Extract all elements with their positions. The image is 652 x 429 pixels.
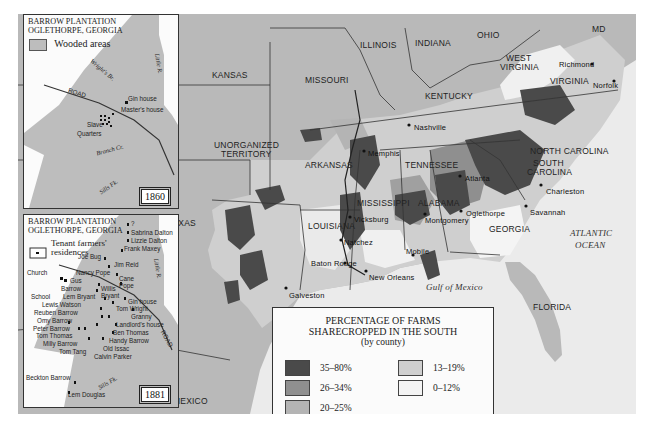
resident-label: Tom Tang bbox=[59, 348, 86, 355]
water-label-gulf: Gulf of Mexico bbox=[426, 282, 483, 292]
inset-1881-title: BARROW PLANTATION OGLETHORPE, GEORGIA bbox=[28, 217, 123, 235]
resident-label: Beckton Barrow bbox=[26, 374, 70, 381]
resident-label: Lem Douglas bbox=[68, 391, 105, 398]
resident-label: Gus bbox=[70, 277, 82, 284]
resident-label: Omy Barrow bbox=[37, 317, 72, 324]
legend-item-20-25: 20–25% bbox=[285, 400, 352, 414]
legend-title-line2: SHARECROPPED IN THE SOUTH bbox=[273, 326, 493, 337]
inset-1860-legend: Wooded areas bbox=[29, 39, 110, 51]
inset-1860-label: Gin house bbox=[128, 95, 157, 102]
resident-label: Gin house bbox=[128, 298, 157, 305]
legend-subtitle: (by county) bbox=[273, 337, 493, 348]
resident-label: Ben Thomas bbox=[113, 329, 149, 336]
resident-label: Barrow bbox=[61, 285, 81, 292]
map-legend: PERCENTAGE OF FARMS SHARECROPPED IN THE … bbox=[272, 307, 494, 414]
water-label-ocean: OCEAN bbox=[575, 240, 606, 250]
inset-1860-label: Quarters bbox=[77, 130, 102, 137]
resident-label: Nancy Pope bbox=[76, 269, 110, 276]
resident-label: Granny bbox=[131, 313, 152, 320]
legend-label: 0–12% bbox=[433, 383, 460, 393]
resident-label: School bbox=[31, 293, 50, 300]
resident-label: Lem Bryant bbox=[63, 293, 95, 300]
resident-label: Landlord's house bbox=[116, 321, 164, 328]
resident-label: Reuben Barrow bbox=[34, 309, 78, 316]
inset-1860-label: Slave bbox=[87, 121, 103, 128]
resident-label: Frank Maxey bbox=[124, 245, 160, 252]
resident-label: Calvin Parker bbox=[94, 353, 132, 360]
resident-label: Church bbox=[27, 269, 47, 276]
legend-item-13-19: 13–19% bbox=[398, 360, 465, 376]
legend-swatch bbox=[398, 380, 423, 396]
water-label-atlantic: ATLANTIC bbox=[570, 228, 612, 238]
legend-item-0-12: 0–12% bbox=[398, 380, 460, 396]
resident-label: Pope bbox=[119, 282, 134, 289]
resident-label: Handy Barrow bbox=[109, 337, 149, 344]
legend-label: 35–80% bbox=[320, 363, 352, 373]
legend-item-35-80: 35–80% bbox=[285, 360, 352, 376]
resident-label: Joe Bug bbox=[78, 253, 101, 260]
resident-label: Tom Thomas bbox=[36, 332, 72, 339]
legend-title-line1: PERCENTAGE OF FARMS bbox=[273, 315, 493, 326]
inset-map-1881: BARROW PLANTATION OGLETHORPE, GEORGIA Te… bbox=[23, 214, 179, 408]
inset-1881-title-line1: BARROW PLANTATION bbox=[28, 217, 123, 226]
resident-label: Tom Wright bbox=[116, 305, 148, 312]
inset-1860-title: BARROW PLANTATION OGLETHORPE, GEORGIA bbox=[28, 17, 123, 35]
resident-label: Old Issac bbox=[103, 345, 129, 352]
legend-label: 26–34% bbox=[320, 383, 352, 393]
inset-1860-title-line2: OGLETHORPE, GEORGIA bbox=[28, 26, 123, 35]
wooded-label: Wooded areas bbox=[54, 38, 110, 49]
resident-label: Bryant bbox=[101, 292, 119, 299]
resident-label: Lizzie Dalton bbox=[131, 237, 167, 244]
inset-1881-title-line2: OGLETHORPE, GEORGIA bbox=[28, 226, 123, 235]
resident-label: Lewis Watson bbox=[42, 301, 81, 308]
inset-map-1860: BARROW PLANTATION OGLETHORPE, GEORGIA Wo… bbox=[23, 14, 179, 209]
inset-1860-title-line1: BARROW PLANTATION bbox=[28, 17, 123, 26]
legend-label: 13–19% bbox=[433, 363, 465, 373]
resident-label: Willis bbox=[101, 285, 116, 292]
legend-item-26-34: 26–34% bbox=[285, 380, 352, 396]
legend-swatch bbox=[285, 400, 310, 414]
resident-label: Milly Barrow bbox=[43, 340, 77, 347]
inset-1860-year: 1860 bbox=[141, 189, 169, 204]
resident-label: Sabrina Dalton bbox=[131, 229, 173, 236]
legend-swatch bbox=[285, 360, 310, 376]
resident-label: ? bbox=[131, 220, 135, 227]
resident-label: Jim Reid bbox=[114, 261, 139, 268]
inset-1881-year: 1881 bbox=[141, 387, 169, 402]
legend-swatch bbox=[285, 380, 310, 396]
legend-swatch bbox=[398, 360, 423, 376]
inset-1860-label: Master's house bbox=[121, 106, 164, 113]
legend-label: 20–25% bbox=[320, 403, 352, 413]
wooded-swatch bbox=[29, 39, 47, 51]
resident-label: Peter Barrow bbox=[33, 325, 70, 332]
resident-label: Cane bbox=[119, 275, 134, 282]
